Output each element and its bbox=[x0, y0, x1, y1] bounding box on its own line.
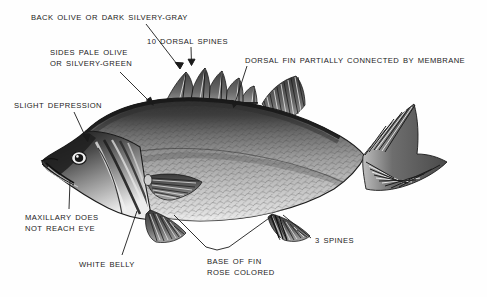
label-line: DORSAL FIN PARTIALLY CONNECTED BY MEMBRA… bbox=[245, 55, 465, 66]
label-line: 3 SPINES bbox=[315, 235, 354, 246]
label-line: 10 DORSAL SPINES bbox=[147, 36, 228, 47]
label-3-spines: 3 SPINES bbox=[315, 235, 354, 246]
label-line: ROSE COLORED bbox=[207, 267, 275, 278]
label-maxillary-does-not-reach-eye: MAXILLARY DOES NOT REACH EYE bbox=[25, 212, 98, 234]
label-line: SIDES PALE OLIVE bbox=[50, 47, 132, 58]
label-base-of-fin-rose-colored: BASE OF FIN ROSE COLORED bbox=[207, 256, 275, 278]
label-back-olive-or-dark-silvery-gray: BACK OLIVE OR DARK SILVERY-GRAY bbox=[31, 12, 188, 23]
label-line: BACK OLIVE OR DARK SILVERY-GRAY bbox=[31, 12, 188, 23]
label-line: NOT REACH EYE bbox=[25, 223, 98, 234]
anal-fin bbox=[268, 214, 310, 241]
label-line: BASE OF FIN bbox=[207, 256, 275, 267]
fish-anatomy-figure: BACK OLIVE OR DARK SILVERY-GRAY 10 DORSA… bbox=[0, 0, 487, 297]
label-line: SLIGHT DEPRESSION bbox=[14, 100, 102, 111]
label-line: OR SILVERY-GREEN bbox=[50, 58, 132, 69]
label-line: WHITE BELLY bbox=[79, 259, 135, 270]
label-line: MAXILLARY DOES bbox=[25, 212, 98, 223]
caudal-fin bbox=[363, 104, 447, 190]
fish-illustration bbox=[0, 0, 487, 297]
eye bbox=[72, 152, 87, 165]
label-sides-pale-olive-or-silvery-green: SIDES PALE OLIVE OR SILVERY-GREEN bbox=[50, 47, 132, 69]
label-slight-depression: SLIGHT DEPRESSION bbox=[14, 100, 102, 111]
label-10-dorsal-spines: 10 DORSAL SPINES bbox=[147, 36, 228, 47]
label-dorsal-fin-partially-connected-by-membrane: DORSAL FIN PARTIALLY CONNECTED BY MEMBRA… bbox=[245, 55, 465, 66]
label-white-belly: WHITE BELLY bbox=[79, 259, 135, 270]
